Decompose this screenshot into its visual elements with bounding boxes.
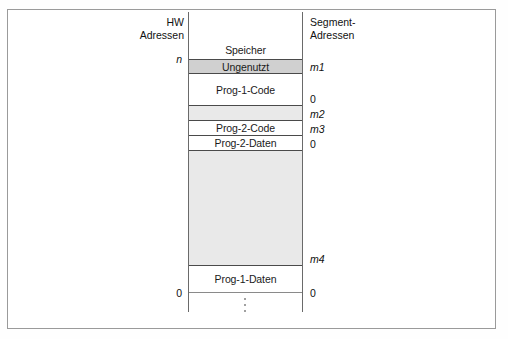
band-prog2-code-label: Prog-2-Code	[216, 122, 275, 134]
segment-address-header-line2: Adressen	[310, 29, 440, 42]
hw-address-header-line1: HW	[64, 16, 184, 29]
hw-address-label-0: 0	[150, 287, 182, 299]
segment-address-label-0-b: 0	[310, 138, 316, 150]
band-prog1-code-label: Prog-1-Code	[216, 84, 275, 96]
segment-address-label-0-c: 0	[310, 287, 316, 299]
segment-address-header: Segment- Adressen	[310, 16, 440, 42]
band-prog2-code: Prog-2-Code	[189, 121, 302, 136]
band-gap-1	[189, 106, 302, 121]
band-prog2-daten-label: Prog-2-Daten	[215, 137, 277, 149]
band-ungenutzt-label: Ungenutzt	[222, 61, 269, 73]
segment-address-label-m4: m4	[310, 253, 325, 265]
memory-column: Speicher Ungenutzt Prog-1-Code Prog-2-Co…	[189, 12, 302, 312]
segment-address-label-0-a: 0	[310, 93, 316, 105]
ellipsis-bottom-icon	[242, 298, 248, 312]
band-gap-2	[189, 151, 302, 266]
segment-address-label-m1: m1	[310, 61, 325, 73]
band-prog1-daten-label: Prog-1-Daten	[215, 273, 277, 285]
segment-address-axis-line	[302, 12, 303, 312]
band-prog1-code: Prog-1-Code	[189, 74, 302, 106]
segment-address-label-m2: m2	[310, 108, 325, 120]
band-prog2-daten: Prog-2-Daten	[189, 136, 302, 151]
band-speicher: Speicher	[189, 12, 302, 60]
memory-segmentation-figure: HW Adressen Segment- Adressen Speicher U…	[0, 0, 508, 339]
hw-address-label-n: n	[150, 53, 182, 65]
band-prog1-daten: Prog-1-Daten	[189, 266, 302, 293]
hw-address-header-line2: Adressen	[64, 29, 184, 42]
segment-address-label-m3: m3	[310, 123, 325, 135]
segment-address-header-line1: Segment-	[310, 16, 440, 29]
band-speicher-label: Speicher	[225, 44, 266, 56]
band-ungenutzt: Ungenutzt	[189, 60, 302, 74]
